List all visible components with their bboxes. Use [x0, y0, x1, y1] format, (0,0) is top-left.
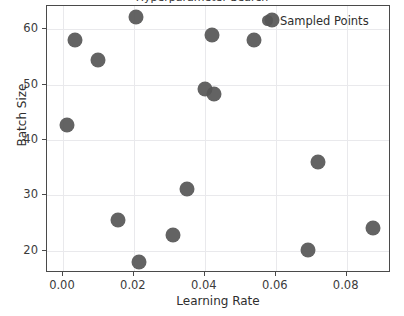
data-point: [247, 33, 262, 48]
data-point: [311, 155, 326, 170]
data-point: [128, 10, 143, 25]
y-tick-label: 20: [23, 243, 38, 257]
scatter-chart-figure: Hyperparameter Search 20304050600.000.02…: [0, 0, 404, 316]
data-point: [110, 213, 125, 228]
x-tick-label: 0.00: [49, 278, 75, 292]
legend-marker-icon: [262, 15, 273, 26]
gridline-vertical: [63, 6, 64, 271]
x-tick-label: 0.02: [120, 278, 146, 292]
data-point: [68, 32, 83, 47]
data-point: [366, 220, 381, 235]
gridline-horizontal: [47, 140, 389, 141]
y-tick-mark: [42, 194, 46, 195]
x-tick-mark: [204, 272, 205, 276]
gridline-horizontal: [47, 195, 389, 196]
y-tick-mark: [42, 84, 46, 85]
legend-label: Sampled Points: [280, 14, 369, 28]
data-point: [300, 242, 315, 257]
data-point: [132, 254, 147, 269]
y-tick-label: 60: [23, 21, 38, 35]
x-tick-mark: [346, 272, 347, 276]
x-axis-label: Learning Rate: [46, 294, 390, 308]
x-tick-mark: [62, 272, 63, 276]
data-point: [165, 228, 180, 243]
y-tick-mark: [42, 250, 46, 251]
gridline-vertical: [205, 6, 206, 271]
data-point: [206, 87, 221, 102]
y-tick-mark: [42, 28, 46, 29]
plot-area: [46, 5, 390, 272]
data-point: [59, 118, 74, 133]
gridline-horizontal: [47, 251, 389, 252]
x-tick-label: 0.08: [333, 278, 359, 292]
y-tick-mark: [42, 139, 46, 140]
x-tick-label: 0.04: [191, 278, 217, 292]
data-point: [91, 53, 106, 68]
y-tick-label: 30: [23, 187, 38, 201]
gridline-vertical: [276, 6, 277, 271]
x-tick-mark: [275, 272, 276, 276]
y-axis-label: Batch Size: [15, 65, 29, 165]
gridline-vertical: [347, 6, 348, 271]
gridline-horizontal: [47, 85, 389, 86]
legend: Sampled Points: [258, 8, 373, 33]
data-point: [180, 182, 195, 197]
x-tick-mark: [133, 272, 134, 276]
chart-title: Hyperparameter Search: [0, 0, 404, 4]
data-point: [204, 27, 219, 42]
x-tick-label: 0.06: [262, 278, 288, 292]
gridline-vertical: [134, 6, 135, 271]
